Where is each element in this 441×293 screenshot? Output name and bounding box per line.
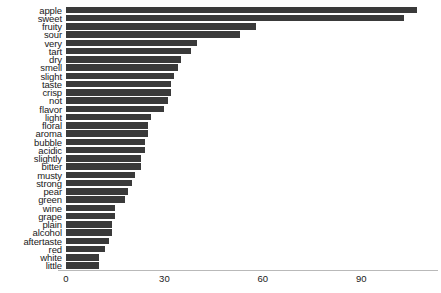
bar [66,205,115,212]
bar-row [66,155,438,163]
bar-row [66,47,438,55]
bar-row [66,14,438,22]
bar-row [66,130,438,138]
bar-row [66,56,438,64]
x-axis-line [58,270,438,271]
category-label: little [0,261,62,271]
bar [66,73,174,80]
bar [66,147,145,154]
bar-row [66,122,438,130]
bar [66,15,404,22]
bar-row [66,80,438,88]
bar-row [66,23,438,31]
bar [66,114,151,121]
bar [66,106,164,113]
bar [66,48,191,55]
bar-row [66,188,438,196]
bar-row [66,237,438,245]
bar-row [66,163,438,171]
bar [66,97,168,104]
bar [66,31,240,38]
bar-row [66,97,438,105]
bar-row [66,221,438,229]
bar-row [66,113,438,121]
bar [66,221,112,228]
bar-row [66,196,438,204]
bar [66,254,99,261]
bar-row [66,229,438,237]
bar-row [66,245,438,253]
bar-row [66,179,438,187]
bar [66,89,171,96]
bar [66,64,178,71]
bar [66,213,115,220]
bar-row [66,254,438,262]
category-axis-labels: applesweetfruitysourverytartdrysmellslig… [0,6,62,270]
bar [66,246,105,253]
bar [66,196,125,203]
bar-row [66,212,438,220]
bar [66,56,181,63]
bar-row [66,89,438,97]
bar [66,163,141,170]
bar [66,229,112,236]
bar-row [66,31,438,39]
bar-row [66,39,438,47]
bar-row [66,146,438,154]
bar-row [66,138,438,146]
bar [66,172,135,179]
bar-row [66,171,438,179]
bar-row [66,6,438,14]
bar [66,122,148,129]
bar [66,23,256,30]
bar [66,238,109,245]
x-tick-label: 30 [159,273,170,284]
x-tick-label: 60 [258,273,269,284]
bar [66,180,132,187]
bar [66,40,197,47]
bar [66,130,148,137]
bar-chart: applesweetfruitysourverytartdrysmellslig… [0,0,441,293]
x-tick-label: 0 [63,273,68,284]
bar-row [66,105,438,113]
bar [66,139,145,146]
bar [66,188,128,195]
plot-area [66,6,438,270]
x-tick-label: 90 [356,273,367,284]
bar-row [66,64,438,72]
bar [66,81,171,88]
bar-row [66,204,438,212]
bar-row [66,262,438,270]
bar [66,7,417,14]
bar-row [66,72,438,80]
bar [66,155,141,162]
bar [66,262,99,269]
